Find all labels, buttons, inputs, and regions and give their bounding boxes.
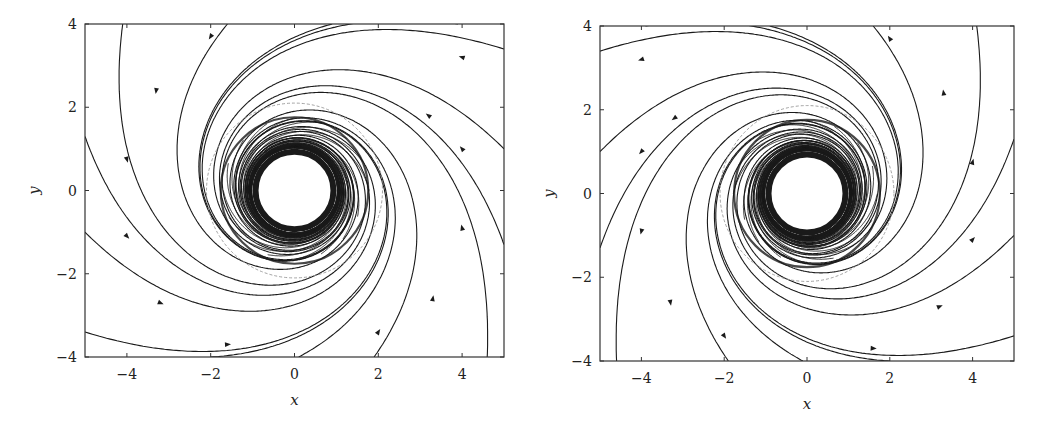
y-tick-label: 2	[583, 102, 592, 118]
direction-arrow-icon	[941, 89, 947, 96]
y-tick-label: 0	[68, 183, 77, 199]
y-tick-label: −4	[571, 353, 592, 369]
direction-arrow-icon	[670, 115, 678, 122]
direction-arrow-icon	[157, 300, 164, 307]
direction-arrow-icon	[458, 145, 466, 153]
y-tick-label: −2	[56, 266, 77, 282]
y-tick-label: 0	[583, 186, 592, 202]
limit-cycle	[768, 155, 845, 233]
plot-frame	[600, 26, 1014, 361]
x-tick-label: 4	[458, 366, 467, 382]
direction-arrow-icon	[668, 300, 674, 307]
x-tick-label: 2	[885, 370, 894, 386]
direction-arrow-icon	[969, 235, 977, 243]
direction-arrow-icon	[721, 332, 728, 340]
direction-arrow-icon	[638, 228, 644, 235]
limit-cycle	[256, 152, 334, 229]
figure: −4−2024−4−2024xy −4−2024−4−2024xy	[0, 0, 1046, 423]
direction-arrow-icon	[153, 88, 159, 95]
left-phase-portrait: −4−2024−4−2024xy	[25, 16, 504, 409]
x-tick-label: −4	[631, 370, 652, 386]
direction-arrow-icon	[637, 56, 644, 62]
plot-frame	[85, 24, 504, 357]
y-axis-label: y	[540, 189, 558, 199]
y-tick-label: −2	[571, 269, 592, 285]
direction-arrow-icon	[886, 34, 893, 42]
direction-arrow-icon	[459, 224, 465, 231]
x-tick-label: −2	[714, 370, 735, 386]
x-tick-label: −2	[200, 366, 221, 382]
x-tick-label: 0	[290, 366, 299, 382]
x-tick-label: 2	[374, 366, 383, 382]
y-tick-label: −4	[56, 349, 77, 365]
direction-arrow-icon	[458, 54, 465, 60]
direction-arrow-icon	[430, 295, 436, 302]
direction-arrow-icon	[637, 148, 645, 156]
direction-arrow-icon	[871, 346, 877, 351]
right-phase-portrait: −4−2024−4−2024xy	[540, 18, 1014, 413]
direction-arrow-icon	[936, 303, 943, 310]
plot-area	[600, 22, 1014, 361]
x-tick-label: 0	[803, 370, 812, 386]
x-axis-label: x	[290, 391, 299, 409]
direction-arrow-icon	[207, 33, 214, 41]
direction-arrow-icon	[375, 328, 382, 336]
plot-area	[85, 20, 504, 357]
y-tick-label: 2	[68, 99, 77, 115]
direction-arrow-icon	[123, 233, 131, 241]
direction-arrow-icon	[424, 112, 432, 119]
x-tick-label: −4	[117, 366, 138, 382]
x-tick-label: 4	[968, 370, 977, 386]
y-axis-label: y	[25, 186, 43, 196]
x-axis-label: x	[803, 395, 812, 413]
y-tick-label: 4	[68, 16, 77, 32]
y-tick-label: 4	[583, 18, 592, 34]
direction-arrow-icon	[225, 342, 231, 347]
